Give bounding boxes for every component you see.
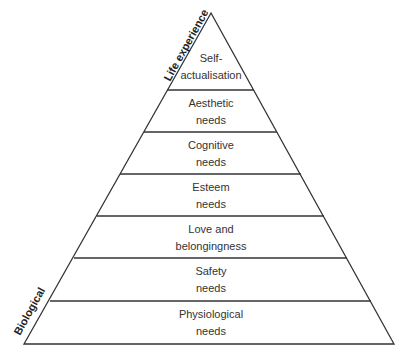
- level-self-actualisation: Self- actualisation: [180, 52, 241, 81]
- svg-text:Self-: Self-: [200, 52, 223, 64]
- svg-text:needs: needs: [196, 198, 226, 210]
- svg-text:Love and: Love and: [188, 223, 233, 235]
- svg-text:Cognitive: Cognitive: [188, 139, 234, 151]
- level-physiological: Physiological needs: [179, 308, 243, 337]
- svg-text:Esteem: Esteem: [192, 181, 229, 193]
- level-esteem: Esteem needs: [192, 181, 229, 210]
- level-aesthetic: Aesthetic needs: [188, 97, 234, 126]
- level-love-belongingness: Love and belongingness: [176, 223, 247, 252]
- svg-text:Physiological: Physiological: [179, 308, 243, 320]
- svg-text:needs: needs: [196, 114, 226, 126]
- svg-text:needs: needs: [196, 325, 226, 337]
- svg-text:belongingness: belongingness: [176, 240, 247, 252]
- level-safety: Safety needs: [195, 265, 227, 294]
- svg-text:Safety: Safety: [195, 265, 227, 277]
- svg-text:Aesthetic: Aesthetic: [188, 97, 234, 109]
- svg-text:needs: needs: [196, 282, 226, 294]
- axis-label-biological: Biological: [11, 285, 47, 337]
- svg-text:actualisation: actualisation: [180, 69, 241, 81]
- level-cognitive: Cognitive needs: [188, 139, 234, 168]
- svg-text:needs: needs: [196, 156, 226, 168]
- pyramid-diagram: Self- actualisation Aesthetic needs Cogn…: [0, 0, 406, 358]
